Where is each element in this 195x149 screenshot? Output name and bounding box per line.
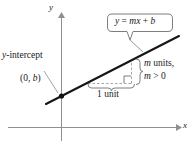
- x-axis: [8, 124, 182, 131]
- rise-condition-rest: > 0: [151, 71, 166, 81]
- point-open-paren: (0,: [20, 73, 33, 83]
- point-close-paren: ): [37, 73, 40, 83]
- axis-label-x: x: [183, 121, 187, 130]
- rise-brace: [136, 59, 143, 85]
- equation-text: y = mx + b: [115, 17, 155, 27]
- y-intercept-label-rest: -intercept: [6, 50, 42, 60]
- equation-plus: +: [140, 16, 150, 26]
- y-axis: [58, 12, 65, 141]
- y-intercept-coordinates: (0, b): [20, 74, 41, 84]
- y-intercept-leader: [44, 71, 58, 93]
- rise-condition-m: m: [144, 71, 151, 81]
- equation-b: b: [151, 16, 156, 26]
- axis-label-y: y: [49, 3, 53, 12]
- slope-intercept-figure: y x y-intercept (0, b) y = mx + b 1 unit…: [0, 0, 195, 149]
- rise-label-m: m: [144, 58, 151, 68]
- y-intercept-label: y-intercept: [2, 51, 43, 61]
- rise-label: m units,m > 0: [144, 59, 174, 81]
- rise-label-units: units,: [151, 58, 174, 68]
- equation-equals: =: [119, 16, 129, 26]
- y-intercept-point: [59, 93, 64, 98]
- run-label: 1 unit: [97, 90, 119, 100]
